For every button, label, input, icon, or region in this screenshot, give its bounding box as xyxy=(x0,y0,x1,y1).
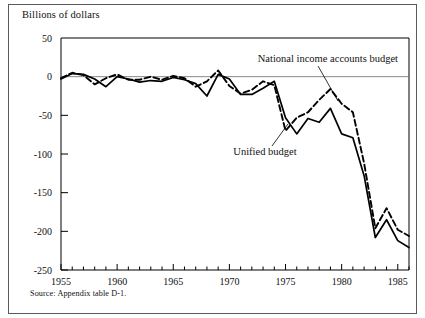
x-axis-tick-label: 1980 xyxy=(332,276,352,287)
series-line-unified-budget xyxy=(61,74,409,248)
y-axis-tick-label: -250 xyxy=(34,265,52,276)
x-axis-tick-label: 1970 xyxy=(219,276,239,287)
x-axis-tick-label: 1955 xyxy=(51,276,71,287)
leader-line-national-income-accounts-budget xyxy=(318,66,338,101)
figure-container: Billions of dollars 500-50-100-150-200-2… xyxy=(0,0,425,318)
chart-plot: 500-50-100-150-200-250195519601965197019… xyxy=(0,0,425,318)
y-axis-tick-label: 0 xyxy=(47,71,52,82)
x-axis-tick-label: 1960 xyxy=(107,276,127,287)
y-axis-tick-label: -200 xyxy=(34,226,52,237)
leader-line-unified-budget xyxy=(272,124,288,146)
y-axis-tick-label: 50 xyxy=(42,33,52,44)
y-axis-tick-label: -150 xyxy=(34,187,52,198)
x-axis-tick-label: 1975 xyxy=(276,276,296,287)
y-axis-tick-label: -50 xyxy=(39,110,52,121)
x-axis-tick-label: 1965 xyxy=(163,276,183,287)
x-axis-tick-label: 1985 xyxy=(388,276,408,287)
annotation-unified-budget: Unified budget xyxy=(233,146,296,157)
annotation-national-income-accounts-budget: National income accounts budget xyxy=(258,53,398,64)
source-note: Source: Appendix table D-1. xyxy=(30,289,126,298)
y-axis-tick-label: -100 xyxy=(34,149,52,160)
